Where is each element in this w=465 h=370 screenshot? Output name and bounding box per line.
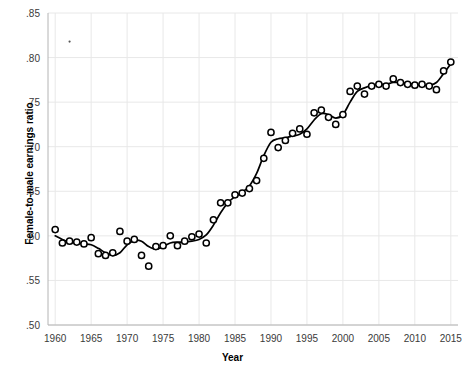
x-axis-ticks: 1960196519701975198019851990199520002005… — [44, 333, 462, 344]
chart-container: .50.55.60.65.70.75.80.851960196519701975… — [0, 0, 465, 370]
data-point-marker — [304, 131, 310, 137]
y-tick-label: .50 — [26, 320, 40, 331]
data-point-marker — [110, 250, 116, 256]
x-tick-label: 2000 — [332, 333, 355, 344]
data-point-marker — [390, 76, 396, 82]
data-point-marker — [174, 243, 180, 249]
data-point-marker — [102, 252, 108, 258]
data-point-marker — [397, 79, 403, 85]
x-tick-label: 2010 — [404, 333, 427, 344]
x-tick-label: 1985 — [224, 333, 247, 344]
data-point-marker — [419, 81, 425, 87]
data-point-marker — [441, 68, 447, 74]
x-tick-label: 1960 — [44, 333, 67, 344]
data-point-marker — [167, 233, 173, 239]
data-point-marker — [261, 155, 267, 161]
data-point-marker — [318, 107, 324, 113]
data-point-marker — [433, 87, 439, 93]
data-point-marker — [203, 240, 209, 246]
data-point-marker — [426, 83, 432, 89]
axis-spines — [48, 13, 458, 325]
data-point-marker — [412, 82, 418, 88]
data-point-marker — [239, 190, 245, 196]
x-tick-label: 2015 — [440, 333, 463, 344]
data-point-marker — [189, 234, 195, 240]
x-tick-label: 1980 — [188, 333, 211, 344]
data-point-marker — [325, 114, 331, 120]
data-point-marker — [210, 217, 216, 223]
data-points — [52, 59, 454, 269]
x-tick-label: 1965 — [80, 333, 103, 344]
data-point-marker — [196, 231, 202, 237]
data-point-marker — [218, 200, 224, 206]
data-point-marker — [146, 263, 152, 269]
data-point-marker — [182, 238, 188, 244]
data-point-marker — [153, 243, 159, 249]
y-tick-label: .85 — [26, 8, 40, 19]
data-point-marker — [448, 59, 454, 65]
data-point-marker — [311, 110, 317, 116]
data-point-marker — [282, 137, 288, 143]
stray-dot — [68, 40, 70, 42]
data-point-marker — [88, 235, 94, 241]
data-point-marker — [52, 227, 58, 233]
data-point-marker — [66, 238, 72, 244]
data-point-marker — [354, 83, 360, 89]
data-point-marker — [124, 238, 130, 244]
data-point-marker — [275, 145, 281, 151]
data-point-marker — [376, 81, 382, 87]
data-point-marker — [361, 91, 367, 97]
y-axis-label: Female-to-male earnings ratio — [24, 49, 35, 299]
data-point-marker — [289, 130, 295, 136]
data-point-marker — [59, 240, 65, 246]
data-point-marker — [74, 239, 80, 245]
data-point-marker — [160, 243, 166, 249]
grid-lines — [48, 13, 458, 325]
x-tick-label: 1975 — [152, 333, 175, 344]
x-axis-label: Year — [0, 352, 465, 363]
x-tick-label: 1970 — [116, 333, 139, 344]
data-point-marker — [268, 129, 274, 135]
data-point-marker — [383, 83, 389, 89]
data-point-marker — [138, 252, 144, 258]
data-point-marker — [131, 236, 137, 242]
data-point-marker — [347, 88, 353, 94]
data-point-marker — [95, 251, 101, 257]
data-point-marker — [369, 83, 375, 89]
data-point-marker — [225, 200, 231, 206]
scatter-plot-svg: .50.55.60.65.70.75.80.851960196519701975… — [0, 0, 465, 370]
data-point-marker — [81, 241, 87, 247]
data-point-marker — [297, 126, 303, 132]
x-tick-label: 1995 — [296, 333, 319, 344]
x-tick-label: 2005 — [368, 333, 391, 344]
data-point-marker — [254, 177, 260, 183]
data-point-marker — [232, 192, 238, 198]
trend-line — [55, 64, 451, 256]
data-point-marker — [246, 186, 252, 192]
data-point-marker — [405, 81, 411, 87]
data-point-marker — [333, 121, 339, 127]
x-tick-label: 1990 — [260, 333, 283, 344]
data-point-marker — [340, 112, 346, 118]
data-point-marker — [117, 228, 123, 234]
